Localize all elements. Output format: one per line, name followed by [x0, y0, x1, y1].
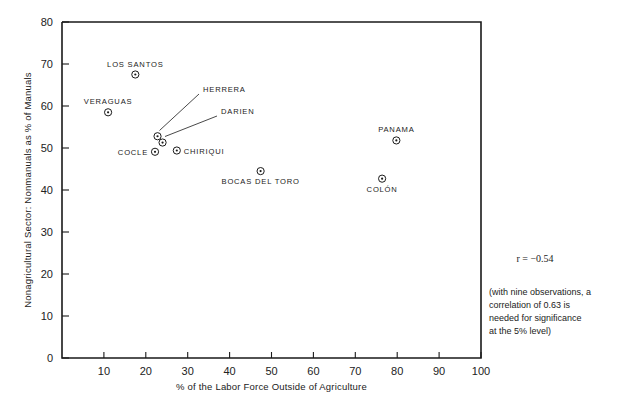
data-point-center [395, 139, 397, 141]
scatter-plot-figure: 102030405060708090100 01020304050607080 … [0, 0, 629, 418]
significance-note-line: correlation of 0.63 is [489, 300, 571, 310]
y-tick-label: 70 [41, 58, 53, 70]
plot-frame [62, 22, 481, 358]
significance-note: (with nine observations, acorrelation of… [489, 287, 591, 336]
data-point: PANAMA [378, 125, 414, 144]
data-point-center [107, 111, 109, 113]
data-points: LOS SANTOSVERAGUASHERRERADARIENCOCLECHIR… [84, 60, 415, 194]
x-tick-label: 50 [265, 365, 277, 377]
data-point-label: COCLE [118, 148, 148, 157]
significance-note-line: (with nine observations, a [489, 287, 591, 297]
y-tick-label: 40 [41, 184, 53, 196]
y-tick-label: 80 [41, 16, 53, 28]
y-tick-label: 0 [47, 352, 53, 364]
data-point-center [176, 149, 178, 151]
data-point-label: LOS SANTOS [107, 60, 163, 69]
plot-canvas: 102030405060708090100 01020304050607080 … [0, 0, 629, 418]
x-axis-ticks [104, 352, 481, 358]
data-point-label: COLÓN [367, 185, 398, 194]
data-point-label: PANAMA [378, 125, 414, 134]
x-tick-label: 20 [140, 365, 152, 377]
data-point-center [134, 73, 136, 75]
correlation-value: r = −0.54 [516, 253, 553, 264]
data-point: COLÓN [367, 175, 398, 194]
data-point-center [154, 151, 156, 153]
y-tick-label: 20 [41, 268, 53, 280]
data-point-label: BOCAS DEL TORO [222, 177, 300, 186]
x-tick-label: 40 [223, 365, 235, 377]
x-tick-label: 60 [307, 365, 319, 377]
significance-note-line: at the 5% level) [489, 326, 551, 336]
data-point-label: HERRERA [203, 85, 246, 94]
data-point: CHIRIQUI [173, 147, 224, 156]
x-tick-label: 90 [433, 365, 445, 377]
x-axis-title: % of the Labor Force Outside of Agricult… [176, 381, 367, 392]
y-tick-label: 50 [41, 142, 53, 154]
data-point-label: CHIRIQUI [184, 147, 225, 156]
data-point-center [156, 135, 158, 137]
data-point: LOS SANTOS [107, 60, 163, 79]
data-point-center [381, 178, 383, 180]
y-tick-label: 30 [41, 226, 53, 238]
data-point-label: VERAGUAS [84, 97, 133, 106]
y-tick-label: 60 [41, 100, 53, 112]
data-point: BOCAS DEL TORO [222, 168, 300, 187]
y-tick-label: 10 [41, 310, 53, 322]
leader-lines [160, 94, 218, 137]
data-point: DARIEN [159, 107, 255, 146]
x-axis-tick-labels: 102030405060708090100 [98, 365, 490, 377]
leader-line-darien [165, 116, 217, 137]
x-tick-label: 80 [391, 365, 403, 377]
x-tick-label: 70 [349, 365, 361, 377]
data-point-label: DARIEN [221, 107, 255, 116]
x-tick-label: 30 [182, 365, 194, 377]
y-axis-title: Nonagricultural Sector: Nonmanuals as % … [22, 72, 33, 308]
data-point-center [260, 170, 262, 172]
data-point: COCLE [118, 148, 159, 157]
x-tick-label: 10 [98, 365, 110, 377]
y-axis-ticks [62, 22, 69, 358]
y-axis-tick-labels: 01020304050607080 [41, 16, 53, 364]
x-tick-label: 100 [472, 365, 490, 377]
significance-note-line: needed for significance [489, 313, 582, 323]
data-point-center [161, 141, 163, 143]
data-point: VERAGUAS [84, 97, 133, 116]
